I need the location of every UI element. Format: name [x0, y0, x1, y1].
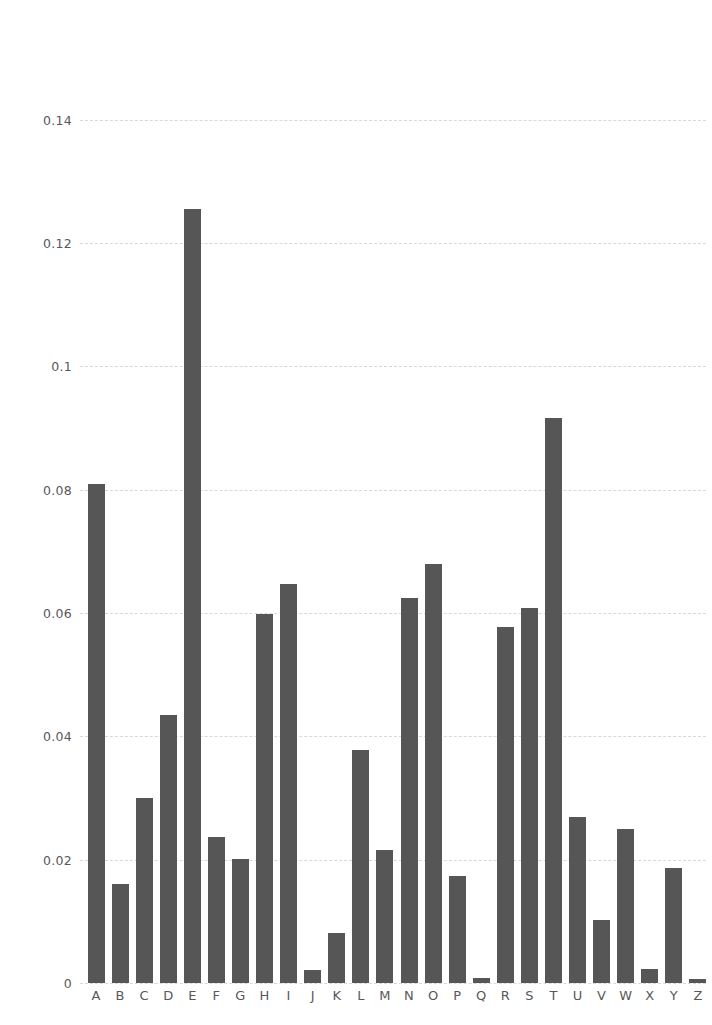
bar-o[interactable] — [425, 564, 442, 983]
y-axis-tick-label: 0 — [0, 976, 72, 991]
bar-j[interactable] — [304, 970, 321, 983]
x-axis-tick-label-s: S — [517, 988, 541, 1003]
gridline — [80, 120, 706, 121]
bar-a[interactable] — [88, 484, 105, 983]
gridline — [80, 490, 706, 491]
x-axis-tick-label-i: I — [277, 988, 301, 1003]
bar-s[interactable] — [521, 608, 538, 983]
bar-p[interactable] — [449, 876, 466, 983]
x-axis-tick-label-k: K — [325, 988, 349, 1003]
bar-g[interactable] — [232, 859, 249, 983]
x-axis-tick-label-r: R — [493, 988, 517, 1003]
bar-i[interactable] — [280, 584, 297, 983]
bar-u[interactable] — [569, 817, 586, 983]
bar-e[interactable] — [184, 209, 201, 983]
bar-r[interactable] — [497, 627, 514, 983]
x-axis-tick-label-g: G — [229, 988, 253, 1003]
x-axis-tick-label-p: P — [445, 988, 469, 1003]
x-axis-tick-label-f: F — [204, 988, 228, 1003]
x-axis-tick-label-q: Q — [469, 988, 493, 1003]
y-axis-tick-label: 0.04 — [0, 729, 72, 744]
y-axis-tick-label: 0.14 — [0, 112, 72, 127]
x-axis-tick-label-h: H — [253, 988, 277, 1003]
bar-c[interactable] — [136, 798, 153, 983]
bar-w[interactable] — [617, 829, 634, 983]
gridline — [80, 243, 706, 244]
gridline — [80, 983, 706, 984]
x-axis-tick-label-c: C — [132, 988, 156, 1003]
bar-z[interactable] — [689, 979, 706, 983]
y-axis-tick-label: 0.1 — [0, 359, 72, 374]
bar-b[interactable] — [112, 884, 129, 983]
x-axis-tick-label-l: L — [349, 988, 373, 1003]
y-axis-tick-label: 0.06 — [0, 606, 72, 621]
x-axis-tick-label-z: Z — [686, 988, 710, 1003]
y-axis-tick-label: 0.08 — [0, 482, 72, 497]
bar-q[interactable] — [473, 978, 490, 983]
gridline — [80, 366, 706, 367]
x-axis-tick-label-e: E — [180, 988, 204, 1003]
bar-m[interactable] — [376, 850, 393, 983]
x-axis-tick-label-n: N — [397, 988, 421, 1003]
x-axis-tick-label-m: M — [373, 988, 397, 1003]
x-axis-tick-label-t: T — [542, 988, 566, 1003]
x-axis-tick-label-x: X — [638, 988, 662, 1003]
x-axis-tick-label-a: A — [84, 988, 108, 1003]
bar-v[interactable] — [593, 920, 610, 983]
bar-k[interactable] — [328, 933, 345, 983]
x-axis-tick-label-u: U — [566, 988, 590, 1003]
x-axis-tick-label-d: D — [156, 988, 180, 1003]
bar-t[interactable] — [545, 418, 562, 983]
x-axis-tick-label-o: O — [421, 988, 445, 1003]
bar-n[interactable] — [401, 598, 418, 983]
x-axis-tick-label-y: Y — [662, 988, 686, 1003]
y-axis-tick-label: 0.12 — [0, 236, 72, 251]
x-axis-tick-label-b: B — [108, 988, 132, 1003]
bar-x[interactable] — [641, 969, 658, 983]
bar-l[interactable] — [352, 750, 369, 983]
bar-h[interactable] — [256, 614, 273, 983]
y-axis-tick-label: 0.02 — [0, 852, 72, 867]
gridline — [80, 613, 706, 614]
bar-d[interactable] — [160, 715, 177, 983]
bar-f[interactable] — [208, 837, 225, 983]
x-axis-tick-label-v: V — [590, 988, 614, 1003]
x-axis-tick-label-j: J — [301, 988, 325, 1003]
bar-y[interactable] — [665, 868, 682, 983]
x-axis-tick-label-w: W — [614, 988, 638, 1003]
bar-chart: 0.140.120.10.080.060.040.020 ABCDEFGHIJK… — [0, 0, 712, 1025]
plot-area — [80, 92, 706, 983]
